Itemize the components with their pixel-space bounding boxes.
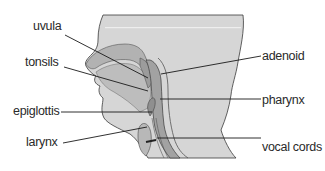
label-larynx: larynx [26, 135, 58, 149]
label-vocal-cords: vocal cords [262, 140, 322, 154]
throat-anatomy-diagram: uvula tonsils epiglottis larynx adenoid … [0, 0, 325, 171]
head-top-highlight [105, 27, 241, 28]
label-pharynx: pharynx [262, 93, 304, 107]
label-epiglottis: epiglottis [13, 104, 59, 118]
label-uvula: uvula [33, 19, 61, 33]
label-tonsils: tonsils [25, 55, 58, 69]
label-adenoid: adenoid [262, 49, 304, 63]
